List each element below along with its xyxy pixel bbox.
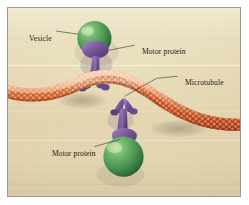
label-motor-protein-top: Motor protein bbox=[142, 48, 186, 56]
figure-frame: Vesicle Motor protein Microtubule Motor … bbox=[7, 7, 241, 197]
label-vesicle: Vesicle bbox=[29, 35, 52, 43]
label-microtubule: Microtubule bbox=[185, 79, 224, 87]
figure-container: Vesicle Motor protein Microtubule Motor … bbox=[0, 0, 249, 205]
label-motor-protein-bottom: Motor protein bbox=[52, 150, 96, 158]
leader-line-vesicle bbox=[56, 31, 78, 34]
